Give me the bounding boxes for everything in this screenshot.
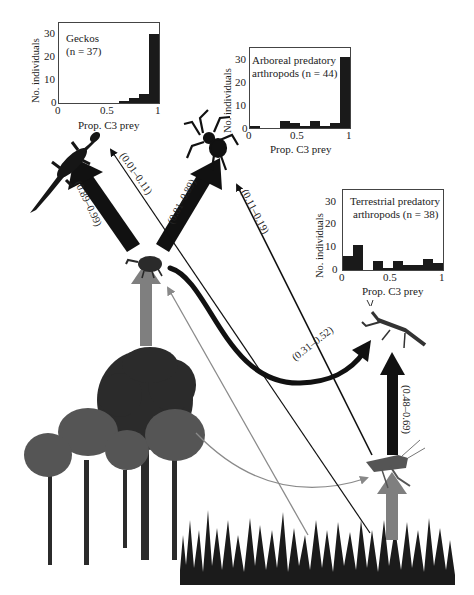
x-tick: 1 <box>155 104 161 116</box>
histogram-bar <box>300 126 310 128</box>
histogram-title: Terrestrial predatory <box>350 195 440 207</box>
histogram-bar <box>393 261 403 270</box>
y-axis-label: No. individuals <box>314 213 325 278</box>
y-tick: 20 <box>325 217 336 229</box>
histogram-bar <box>139 94 149 103</box>
gray-arrow-trees-to-beetle <box>131 262 161 346</box>
histogram-title: Geckos <box>66 32 99 44</box>
histogram-arboreal-arthropods: No. individuals 30 20 10 0 Arboreal pred… <box>200 30 370 165</box>
y-tick: 30 <box>44 27 55 39</box>
x-tick: 0.5 <box>383 271 397 283</box>
gray-arrow-trees-to-grasshopper <box>196 433 367 487</box>
histogram-bar <box>423 259 433 270</box>
histogram-bar <box>403 265 413 270</box>
histogram-geckos: No. individuals 30 20 10 0 Geckos (n = 3… <box>0 0 170 135</box>
y-tick: 0 <box>332 263 338 275</box>
x-axis-label: Prop. C3 prey <box>362 285 423 297</box>
histogram-terrestrial-arthropods: No. individuals 30 20 10 0 Terrestrial p… <box>300 175 474 315</box>
histogram-bar <box>343 256 353 270</box>
histogram-bar <box>383 268 393 270</box>
y-axis-label: No. individuals <box>30 38 41 103</box>
x-tick: 0 <box>339 271 345 283</box>
histogram-bar <box>330 123 340 128</box>
x-axis-label: Prop. C3 prey <box>270 143 331 155</box>
food-web-diagram: (0.89–0.99) (0.01–0.11) (0.81–0.89) (0.1… <box>0 0 474 595</box>
y-tick: 10 <box>325 240 336 252</box>
x-tick: 0.5 <box>100 104 114 116</box>
histogram-bar <box>290 123 300 128</box>
flow-label-grasshopper-mantis: (0.48–0.69) <box>401 385 412 434</box>
x-axis-label: Prop. C3 prey <box>78 119 139 131</box>
histogram-bar <box>353 245 363 270</box>
y-tick: 20 <box>235 76 246 88</box>
x-tick: 0 <box>55 104 61 116</box>
x-tick: 0.5 <box>290 129 304 141</box>
histogram-bar <box>413 265 423 270</box>
arrow-beetle-to-spider <box>156 158 222 252</box>
x-tick: 1 <box>439 271 445 283</box>
histogram-bar <box>129 98 139 103</box>
histogram-title: Arboreal predatory <box>252 54 336 66</box>
histogram-bar <box>310 121 320 128</box>
y-tick: 30 <box>235 53 246 65</box>
x-tick: 0 <box>246 129 252 141</box>
histogram-bar <box>149 34 159 103</box>
histogram-bar <box>433 263 443 270</box>
trees-illustration <box>24 347 205 565</box>
histogram-bar <box>340 57 350 128</box>
histogram-bar <box>373 261 383 270</box>
y-axis-label: No. individuals <box>222 68 233 133</box>
x-tick: 1 <box>346 129 352 141</box>
histogram-n: (n = 37) <box>66 45 102 57</box>
y-tick: 10 <box>235 99 246 111</box>
histogram-n: arthropods (n = 44) <box>252 67 337 79</box>
histogram-bar <box>280 121 290 128</box>
histogram-n: arthropods (n = 38) <box>353 208 438 220</box>
y-tick: 20 <box>44 50 55 62</box>
y-tick: 10 <box>44 73 55 85</box>
histogram-bar <box>250 126 260 128</box>
histogram-bar <box>320 126 330 128</box>
histogram-bar <box>119 101 129 103</box>
y-tick: 30 <box>325 195 336 207</box>
grass-illustration <box>180 510 455 585</box>
